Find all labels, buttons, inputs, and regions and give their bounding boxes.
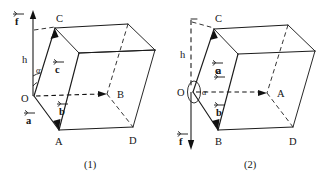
panel-1-caption: (1) [84,159,97,171]
panel-1-label-b: b [59,106,65,117]
panel-2-label-f: f [179,136,183,147]
panel-2-label-C: C [215,13,222,24]
panel-2-c-text: c [215,65,220,76]
panel-1-axis-to-C-dashed [34,27,55,30]
panel-1-label-C: C [56,13,63,24]
panel-2-f-arrowhead [188,140,194,150]
panel-1-hidden-edge-topright-B [107,24,128,94]
panel-1-vector-b-arrowhead [98,91,107,97]
panel-1-label-alpha: α [36,65,41,75]
panel-2-label-h: h [180,49,186,60]
panel-2-edge-topright-backtop [288,25,315,51]
panel-1-label-O: O [21,93,29,104]
panel-1-edge-topmid-A [59,53,79,130]
panel-1-edge-C-topmid [55,28,79,53]
panel-1-label-B: B [117,89,124,100]
panel-1-label-h: h [22,54,28,65]
panel-1-label-a: a [26,115,32,126]
panel-1-angle-alpha-arc2 [33,83,37,87]
panel-2-caption: (2) [244,159,257,171]
panel-1-edge-A-D [59,127,133,130]
panel-2-vector-a-arrowhead [258,90,267,96]
panel-2-label-A: A [277,88,285,99]
panel-2-edge-C-topright [214,25,288,29]
panel-2-edge-backtop-D [293,51,315,127]
panel-2-label-alpha: α [202,87,207,97]
panel-1-edge-O-A [34,96,59,130]
panel-2-edge-topmid-backtop [238,51,315,54]
panel-2-hidden-edge-topright-A [267,25,288,93]
panel-1-edge-topright-backtop [128,24,155,50]
panel-1-f-arrowhead [30,10,36,19]
panel-2-axis-to-C-dashed [192,22,214,28]
panel-1: f h α O A B C D c b a (1) [13,10,155,171]
panel-1-diagram: f h α O A B C D c b a (1) [0,0,328,186]
panel-1-edge-C-topright [55,24,128,28]
panel-1-label-c: c [55,64,60,75]
panel-1-edge-mid-horizontal [79,50,155,53]
panel-2-label-O: O [177,87,185,98]
panel-1-edge-backtop-D [133,50,155,127]
panel-2: h O α a b c c f B D A C c c c [177,13,315,171]
figure-root: f h α O A B C D c b a (1) [0,0,328,186]
panel-2-label-D: D [289,136,297,147]
panel-2-edge-B-D [218,127,293,130]
panel-1-label-f: f [15,16,19,27]
panel-2-label-b: b [216,107,222,118]
panel-2-label-B: B [215,136,222,147]
panel-1-label-D: D [129,135,137,146]
panel-1-label-A: A [55,136,63,147]
panel-2-edge-C-topmid [214,29,238,54]
